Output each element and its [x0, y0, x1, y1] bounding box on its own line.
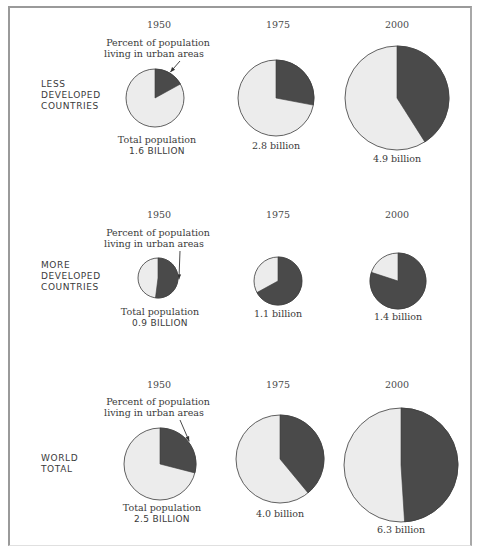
total-population-value: 6.3 billion: [377, 524, 425, 535]
pie-urban-slice: [155, 258, 178, 298]
row-label: DEVELOPED: [41, 90, 101, 100]
urban-annotation: living in urban areas: [104, 407, 204, 418]
urban-annotation: Percent of population: [106, 227, 210, 238]
total-population-value: 0.9 BILLION: [132, 318, 188, 328]
total-population-value: 2.8 billion: [252, 140, 300, 151]
urban-annotation: living in urban areas: [104, 238, 204, 249]
total-population-label: Total population: [118, 134, 196, 145]
urban-population-pie-chart: 195019752000LESSDEVELOPEDCOUNTRIESPercen…: [0, 0, 483, 550]
row-label: TOTAL: [40, 464, 73, 474]
year-header: 2000: [385, 19, 409, 30]
year-header: 1975: [266, 19, 290, 30]
year-header: 1975: [266, 379, 290, 390]
total-population-value: 1.6 BILLION: [129, 146, 185, 156]
pie-urban-slice: [401, 408, 458, 522]
total-population-value: 1.1 billion: [254, 308, 302, 319]
total-population-value: 4.0 billion: [256, 508, 304, 519]
row-label: LESS: [41, 79, 66, 89]
year-header: 1975: [266, 209, 290, 220]
total-population-label: Total population: [123, 502, 201, 513]
total-population-value: 1.4 billion: [374, 311, 422, 322]
row-label: COUNTRIES: [41, 282, 99, 292]
pie-urban-slice: [276, 60, 314, 105]
year-header: 2000: [385, 209, 409, 220]
year-header: 1950: [147, 379, 171, 390]
year-header: 1950: [147, 19, 171, 30]
total-population-value: 2.5 BILLION: [134, 514, 190, 524]
row-label: DEVELOPED: [41, 271, 101, 281]
urban-annotation: Percent of population: [106, 396, 210, 407]
total-population-label: Total population: [121, 306, 199, 317]
year-header: 2000: [385, 379, 409, 390]
row-label: MORE: [41, 260, 70, 270]
urban-annotation: Percent of population: [106, 37, 210, 48]
row-label: COUNTRIES: [41, 101, 99, 111]
year-header: 1950: [147, 209, 171, 220]
total-population-value: 4.9 billion: [373, 153, 421, 164]
row-label: WORLD: [41, 453, 78, 463]
urban-annotation: living in urban areas: [104, 48, 204, 59]
